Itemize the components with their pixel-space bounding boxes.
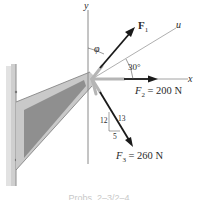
u-axis-label: u [176,20,181,30]
f2-arrow [124,76,158,83]
triangle-5-label: 5 [113,133,117,141]
member-stubs [92,66,124,94]
f2-label: F2 = 200 N [135,86,182,99]
force-diagram [0,0,198,200]
phi-label: φ [94,44,100,54]
bracket [16,72,96,170]
x-axis-label: x [188,74,192,84]
wall [6,64,17,186]
f1-label: F1 [138,20,148,34]
y-axis-label: y [84,1,88,11]
angle-30-label: 30° [128,63,141,72]
f3-label: F3 = 260 N [116,151,163,164]
figure-caption: Probs. 2–3/2–4 [0,193,198,200]
triangle-13-label: 13 [118,115,126,123]
triangle-12-label: 12 [100,117,108,125]
